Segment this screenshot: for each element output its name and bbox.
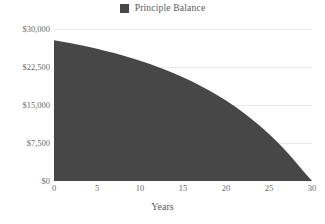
x-tick-label: 15 [179, 184, 188, 193]
x-tick-label: 10 [136, 184, 145, 193]
amortization-area-chart: Principle Balance $0 $7,500 $15,000 $22,… [0, 0, 325, 224]
legend-item-label: Principle Balance [135, 4, 206, 14]
y-tick-label: $30,000 [0, 25, 50, 34]
x-tick-label: 5 [95, 184, 99, 193]
y-axis: $0 $7,500 $15,000 $22,500 $30,000 [0, 0, 50, 224]
y-tick-label: $22,500 [0, 63, 50, 72]
x-tick-label: 0 [52, 184, 56, 193]
x-tick-label: 25 [265, 184, 274, 193]
x-tick-label: 20 [222, 184, 231, 193]
plot-area [54, 29, 312, 181]
area-fill-path [54, 40, 312, 181]
legend-swatch-icon [120, 4, 129, 13]
x-axis-title: Years [0, 202, 325, 212]
x-tick-label: 30 [308, 184, 317, 193]
y-tick-label: $7,500 [0, 139, 50, 148]
y-tick-label: $15,000 [0, 101, 50, 110]
x-axis: 0 5 10 15 20 25 30 [54, 184, 312, 198]
y-tick-label: $0 [0, 177, 50, 186]
series-principle-balance [54, 29, 312, 181]
